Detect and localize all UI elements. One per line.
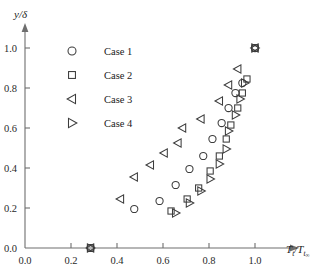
data-point-square bbox=[228, 122, 234, 128]
data-point-triangle-left bbox=[174, 139, 182, 147]
data-point-triangle-right bbox=[172, 209, 180, 217]
data-point-triangle-left bbox=[160, 149, 168, 157]
data-point-triangle-left bbox=[130, 173, 138, 181]
data-point-triangle-left bbox=[116, 195, 124, 203]
x-axis-tick-label: 0.6 bbox=[156, 255, 169, 266]
legend-marker-square bbox=[69, 72, 76, 79]
data-point-triangle-left bbox=[233, 65, 241, 73]
data-point-circle bbox=[209, 135, 216, 142]
data-point-square bbox=[223, 136, 229, 142]
data-point-circle bbox=[131, 205, 138, 212]
legend-marker-triangle-right bbox=[68, 118, 76, 127]
data-point-triangle-left bbox=[224, 81, 232, 89]
legend-item-case-3: Case 3 bbox=[67, 94, 132, 105]
legend-label: Case 4 bbox=[104, 118, 133, 129]
y-axis-tick-label: 0.6 bbox=[4, 123, 17, 134]
plot-canvas: 0.00.20.40.60.81.00.00.20.40.60.81.0 Cas… bbox=[0, 0, 322, 279]
y-axis-arrowhead-icon bbox=[22, 23, 29, 32]
legend-label: Case 1 bbox=[104, 46, 132, 57]
ticks-group bbox=[25, 48, 255, 248]
y-axis-tick-label: 0.8 bbox=[4, 83, 17, 94]
legend-item-case-4: Case 4 bbox=[68, 118, 133, 129]
x-axis-tick-label: 0.8 bbox=[202, 255, 215, 266]
data-point-circle bbox=[156, 197, 163, 204]
y-axis-title: y/δ bbox=[13, 8, 28, 20]
legend-item-case-2: Case 2 bbox=[69, 70, 133, 81]
legend-marker-circle bbox=[68, 47, 76, 55]
data-point-triangle-left bbox=[146, 161, 154, 169]
data-point-triangle-left bbox=[178, 124, 186, 132]
y-axis-tick-label: 0.0 bbox=[4, 243, 17, 254]
data-point-triangle-right bbox=[207, 175, 215, 183]
data-point-square bbox=[235, 105, 241, 111]
data-point-square bbox=[239, 90, 245, 96]
data-point-circle bbox=[225, 104, 232, 111]
data-point-square bbox=[216, 153, 222, 159]
x-axis-tick-label: 0.0 bbox=[18, 255, 31, 266]
x-axis-tick-label: 0.4 bbox=[110, 255, 124, 266]
data-point-circle bbox=[218, 119, 225, 126]
data-point-circle bbox=[186, 165, 193, 172]
data-point-square bbox=[207, 168, 213, 174]
axes-group bbox=[22, 23, 299, 251]
data-point-circle bbox=[200, 152, 207, 159]
data-point-triangle-right bbox=[216, 160, 224, 168]
y-axis-tick-label: 0.4 bbox=[4, 163, 18, 174]
x-axis-tick-label: 1.0 bbox=[248, 255, 261, 266]
data-point-triangle-right bbox=[223, 145, 231, 153]
data-point-circle bbox=[172, 181, 179, 188]
legend-label: Case 2 bbox=[104, 70, 132, 81]
legend-group: Case 1Case 2Case 3Case 4 bbox=[67, 46, 133, 129]
legend-marker-triangle-left bbox=[67, 94, 75, 103]
y-axis-tick-label: 1.0 bbox=[4, 43, 17, 54]
axis-titles-group: y/δTt/Tt∞ bbox=[13, 8, 310, 258]
data-point-triangle-right bbox=[232, 111, 240, 119]
y-axis-tick-label: 0.2 bbox=[4, 203, 17, 214]
x-axis-title: Tt/Tt∞ bbox=[286, 243, 310, 258]
legend-label: Case 3 bbox=[104, 94, 132, 105]
data-point-triangle-left bbox=[215, 97, 223, 105]
x-axis-tick-label: 0.2 bbox=[64, 255, 77, 266]
data-point-triangle-left bbox=[197, 115, 205, 123]
scatter-chart-figure: 0.00.20.40.60.81.00.00.20.40.60.81.0 Cas… bbox=[0, 0, 322, 279]
legend-item-case-1: Case 1 bbox=[68, 46, 132, 57]
